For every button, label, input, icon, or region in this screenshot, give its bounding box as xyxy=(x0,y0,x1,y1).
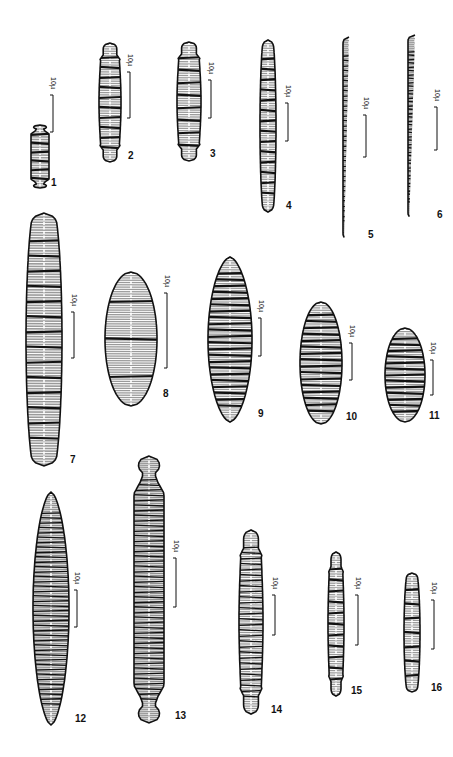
diatom-figure-plate: 10µ110µ210µ310µ410µ510µ610µ710µ810µ910µ1… xyxy=(0,0,453,757)
figure-number: 10 xyxy=(346,411,358,422)
scale-bar-label: 10µ xyxy=(430,582,438,594)
figure-number: 2 xyxy=(128,150,134,161)
scale-bar-label: 10µ xyxy=(163,275,171,287)
scale-bar-label: 10µ xyxy=(354,577,362,589)
scale-bar-label: 10µ xyxy=(126,54,134,66)
scale-bar-label: 10µ xyxy=(284,85,292,97)
figure-number: 12 xyxy=(75,713,87,724)
scale-bar-label: 10µ xyxy=(70,294,78,306)
figure-number: 7 xyxy=(70,454,76,465)
scale-bar-label: 10µ xyxy=(362,97,370,109)
scale-bar-label: 10µ xyxy=(348,325,356,337)
scale-bar-label: 10µ xyxy=(433,89,441,101)
figure-number: 15 xyxy=(351,685,363,696)
figure-number: 16 xyxy=(431,682,443,693)
figure-number: 9 xyxy=(258,408,264,419)
figure-number: 6 xyxy=(437,209,443,220)
figure-number: 5 xyxy=(368,229,374,240)
scale-bar-label: 10µ xyxy=(172,540,180,552)
scale-bar-label: 10µ xyxy=(49,77,57,89)
figure-number: 14 xyxy=(271,704,283,715)
scale-bar-label: 10µ xyxy=(257,300,265,312)
figure-number: 8 xyxy=(163,388,169,399)
scale-bar-label: 10µ xyxy=(73,572,81,584)
scale-bar-label: 10µ xyxy=(429,342,437,354)
figure-number: 3 xyxy=(210,148,216,159)
figure-number: 4 xyxy=(286,200,292,211)
figure-number: 1 xyxy=(51,177,57,188)
figure-number: 11 xyxy=(429,410,440,421)
scale-bar-label: 10µ xyxy=(207,62,215,74)
figure-number: 13 xyxy=(175,710,187,721)
scale-bar-label: 10µ xyxy=(271,577,279,589)
